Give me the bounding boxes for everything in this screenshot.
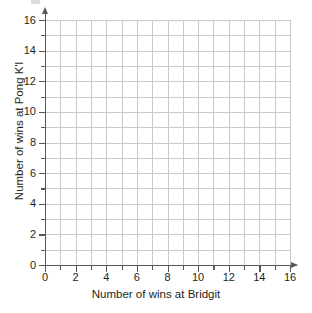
gridline-horizontal (45, 158, 290, 159)
gridline-horizontal (45, 35, 290, 36)
gridline-horizontal (45, 173, 290, 174)
y-axis-tick-major (39, 204, 45, 205)
y-axis-tick-major (39, 143, 45, 144)
gridline-horizontal (45, 250, 290, 251)
y-axis-tick-minor (41, 35, 45, 36)
y-axis-title: Number of wins at Pong K'l (13, 16, 25, 246)
x-axis-title: Number of wins at Bridgit (0, 288, 312, 300)
gridline-horizontal (45, 81, 290, 82)
x-axis-tick-label: 10 (183, 272, 213, 283)
x-axis-tick-label: 0 (30, 272, 60, 283)
x-axis-tick-label: 2 (61, 272, 91, 283)
y-axis-tick-major (39, 20, 45, 21)
y-axis-tick-major (39, 51, 45, 52)
y-axis-tick-major (39, 81, 45, 82)
x-axis-tick-minor (91, 266, 92, 270)
gridline-horizontal (45, 143, 290, 144)
y-axis-tick-major (39, 234, 45, 235)
x-axis-tick-minor (244, 266, 245, 270)
gridline-horizontal (45, 204, 290, 205)
x-axis-tick-minor (213, 266, 214, 270)
y-axis-tick-major (39, 112, 45, 113)
y-axis-tick-minor (41, 250, 45, 251)
clipped-artifact (31, 0, 40, 4)
gridline-horizontal (45, 112, 290, 113)
gridline-horizontal (45, 234, 290, 235)
gridline-horizontal (45, 219, 290, 220)
gridline-horizontal (45, 20, 290, 21)
y-axis-tick-minor (41, 97, 45, 98)
x-axis-tick-label: 6 (122, 272, 152, 283)
y-axis-line (45, 13, 46, 266)
y-axis-tick-minor (41, 188, 45, 189)
x-axis-arrowhead-icon (291, 262, 298, 268)
y-axis-tick-minor (41, 219, 45, 220)
x-axis-tick-minor (60, 266, 61, 270)
y-axis-tick-major (39, 173, 45, 174)
x-axis-tick-label: 16 (275, 272, 305, 283)
plot-area (45, 20, 290, 265)
x-axis-tick-minor (122, 266, 123, 270)
x-axis-tick-minor (152, 266, 153, 270)
x-axis-tick-minor (183, 266, 184, 270)
x-axis-tick-label: 12 (214, 272, 244, 283)
y-axis-arrowhead-icon (42, 7, 48, 14)
x-axis-tick-minor (275, 266, 276, 270)
y-axis-tick-label: 0 (0, 260, 36, 271)
gridline-horizontal (45, 97, 290, 98)
gridline-horizontal (45, 66, 290, 67)
y-axis-tick-minor (41, 66, 45, 67)
x-axis-tick-label: 14 (244, 272, 274, 283)
y-axis-tick-minor (41, 127, 45, 128)
y-axis-tick-major (39, 265, 45, 266)
x-axis-tick-label: 4 (91, 272, 121, 283)
coordinate-grid-chart: 02468101214160246810121416 Number of win… (0, 0, 312, 313)
gridline-horizontal (45, 127, 290, 128)
gridline-vertical (290, 20, 291, 265)
x-axis-tick-label: 8 (153, 272, 183, 283)
gridline-horizontal (45, 188, 290, 189)
y-axis-tick-minor (41, 158, 45, 159)
gridline-horizontal (45, 51, 290, 52)
